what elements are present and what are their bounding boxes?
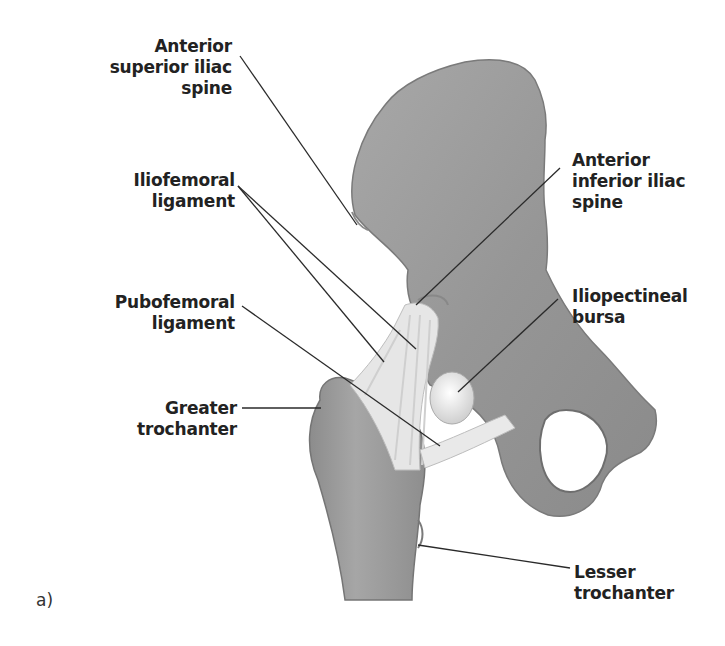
label-line: Lesser bbox=[574, 562, 674, 583]
label-line: trochanter bbox=[574, 583, 674, 604]
label-line: ligament bbox=[115, 313, 235, 334]
label-anterior-superior-iliac-spine: Anterior superior iliac spine bbox=[110, 36, 232, 99]
label-line: spine bbox=[572, 192, 685, 213]
label-line: trochanter bbox=[137, 419, 237, 440]
label-greater-trochanter: Greater trochanter bbox=[137, 398, 237, 440]
label-line: Anterior bbox=[110, 36, 232, 57]
label-line: Anterior bbox=[572, 150, 685, 171]
label-anterior-inferior-iliac-spine: Anterior inferior iliac spine bbox=[572, 150, 685, 213]
label-line: Iliopectineal bbox=[572, 286, 688, 307]
label-line: Greater bbox=[137, 398, 237, 419]
iliopectineal-bursa-shape bbox=[430, 372, 474, 424]
label-pubofemoral-ligament: Pubofemoral ligament bbox=[115, 292, 235, 334]
label-line: ligament bbox=[134, 191, 235, 212]
label-line: inferior iliac bbox=[572, 171, 685, 192]
label-line: superior iliac bbox=[110, 57, 232, 78]
label-iliopectineal-bursa: Iliopectineal bursa bbox=[572, 286, 688, 328]
label-iliofemoral-ligament: Iliofemoral ligament bbox=[134, 170, 235, 212]
panel-label: a) bbox=[36, 590, 53, 610]
label-line: bursa bbox=[572, 307, 688, 328]
label-lesser-trochanter: Lesser trochanter bbox=[574, 562, 674, 604]
label-line: Iliofemoral bbox=[134, 170, 235, 191]
label-line: Pubofemoral bbox=[115, 292, 235, 313]
label-line: spine bbox=[110, 78, 232, 99]
